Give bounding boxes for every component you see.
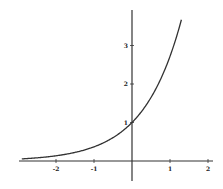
exp-curve xyxy=(22,20,182,159)
x-tick-label: -2 xyxy=(53,165,60,172)
y-tick-label: 1 xyxy=(124,119,128,126)
y-tick-label: 2 xyxy=(124,80,128,87)
exponential-plot: -2-112 123 xyxy=(0,0,223,189)
x-tick-label: 1 xyxy=(168,165,172,172)
y-tick-label: 3 xyxy=(124,42,128,49)
x-tick-label: 2 xyxy=(206,165,210,172)
x-tick-label: -1 xyxy=(91,165,98,172)
